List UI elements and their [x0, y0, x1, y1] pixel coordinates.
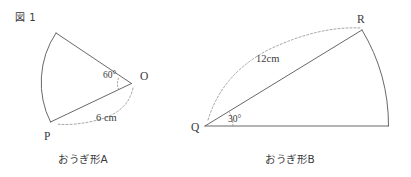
sector-a-group: 60° O P 6 cm おうぎ形A: [41, 33, 148, 165]
sector-b-group: Q R 30° 12cm おうぎ形B: [191, 13, 389, 165]
sector-b-caption: おうぎ形B: [265, 153, 315, 165]
sector-b-angle-label: 30°: [228, 114, 242, 124]
sector-a-center-label: O: [140, 70, 148, 82]
sector-b-radius-label: 12cm: [256, 53, 279, 64]
sector-a-radius-upper: [56, 33, 132, 84]
sector-b-arc-point-label: R: [357, 13, 365, 25]
sector-a-angle-mark: [117, 78, 118, 89]
figure-number-label: 図 1: [15, 12, 36, 23]
sector-b-center-label: Q: [191, 121, 200, 133]
sector-a-caption: おうぎ形A: [58, 153, 108, 165]
sector-b-measure-arc: [208, 28, 360, 120]
sector-a-radius-lower: [51, 84, 132, 123]
sector-b-arc: [362, 30, 389, 126]
sector-a-arc-point-label: P: [44, 130, 50, 142]
sector-a-measure-arc: [57, 88, 133, 125]
sector-b-radius-slanted: [205, 30, 362, 126]
sector-a-angle-label: 60°: [103, 70, 117, 80]
geometry-canvas: 図 1 60° O P 6 cm おうぎ形A: [0, 0, 411, 177]
sector-a-arc: [41, 33, 56, 122]
figure-sheet: 図 1 60° O P 6 cm おうぎ形A: [0, 0, 411, 177]
sector-a-radius-label: 6 cm: [96, 112, 117, 123]
